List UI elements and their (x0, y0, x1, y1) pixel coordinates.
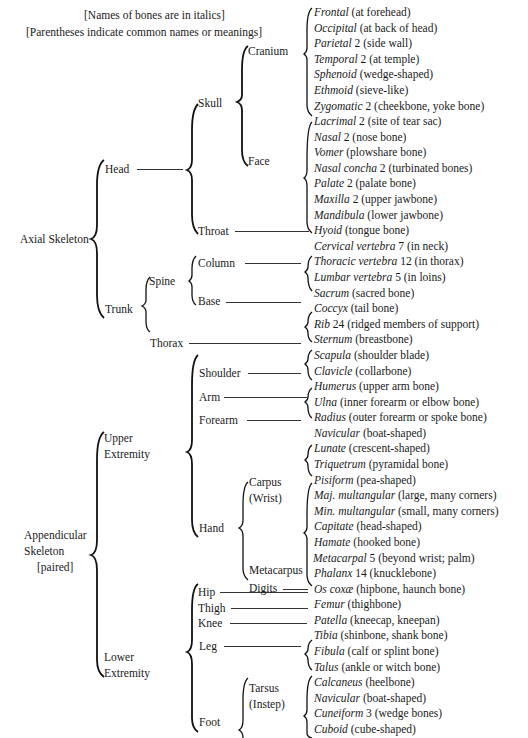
bone-name: Maj. multangular (314, 489, 395, 501)
line-thigh (231, 608, 308, 609)
bone-meaning: (calf or splint bone) (348, 645, 439, 657)
bone-entry: Occipital (at back of head) (314, 21, 437, 35)
bone-entry: Vomer (plowshare bone) (314, 145, 426, 159)
bone-meaning: (cube-shaped) (351, 723, 416, 735)
bone-entry: Humerus (upper arm bone) (314, 379, 439, 393)
bone-name: Thoracic vertebra (314, 255, 397, 267)
bone-meaning: (hipbone, haunch bone) (356, 583, 465, 595)
label-upper-extremity: Extremity (104, 447, 150, 461)
note-parentheses: [Parentheses indicate common names or me… (26, 25, 262, 39)
bone-entry: Navicular (boat-shaped) (314, 426, 426, 440)
bone-entry: Talus (ankle or witch bone) (314, 660, 440, 674)
bone-count: 2 (352, 37, 361, 49)
bone-count: 2 (356, 115, 365, 127)
bone-name: Ethmoid (314, 84, 353, 96)
label-leg: Leg (199, 639, 217, 653)
bone-entry: Maxilla 2 (upper jawbone) (314, 192, 437, 206)
bone-meaning: (side wall) (363, 37, 412, 49)
bone-entry: Hamate (hooked bone) (314, 535, 420, 549)
label-foot: Foot (199, 715, 220, 729)
bone-entry: Sacrum (sacred bone) (314, 286, 414, 300)
bone-name: Navicular (314, 692, 360, 704)
note-italics: [Names of bones are in italics] (84, 8, 225, 22)
bone-name: Mandibula (314, 209, 364, 221)
bone-name: Lacrimal (314, 115, 356, 127)
bone-entry: Zygomatic 2 (cheekbone, yoke bone) (314, 99, 484, 113)
bone-meaning: (hooked bone) (353, 536, 420, 548)
bone-entry: Cervical vertebra 7 (in neck) (314, 239, 448, 253)
bone-name: Nasal (314, 131, 341, 143)
label-forearm: Forearm (199, 413, 238, 427)
label-instep: (Instep) (249, 697, 285, 711)
bone-count: 5 (392, 271, 401, 283)
label-face: Face (248, 154, 270, 168)
bone-entry: Pisiform (pea-shaped) (314, 473, 416, 487)
label-trunk: Trunk (105, 302, 133, 316)
label-knee: Knee (198, 616, 222, 630)
bone-entry: Patella (kneecap, kneepan) (314, 613, 439, 627)
label-head: Head (105, 162, 129, 176)
bone-count: 2 (363, 100, 372, 112)
bone-entry: Lunate (crescent-shaped) (314, 441, 430, 455)
line-throat (235, 231, 309, 232)
bone-entry: Hyoid (tongue bone) (314, 223, 409, 237)
bone-meaning: (at back of head) (360, 22, 438, 34)
bone-entry: Triquetrum (pyramidal bone) (314, 457, 448, 471)
line-head (137, 169, 183, 170)
bone-entry: Mandibula (lower jawbone) (314, 208, 443, 222)
bone-name: Hyoid (314, 224, 342, 236)
bone-meaning: (knucklebone) (370, 567, 436, 579)
bone-meaning: (beyond wrist; palm) (378, 552, 474, 564)
bone-entry: Frontal (at forehead) (314, 5, 411, 19)
bone-meaning: (sacred bone) (352, 287, 414, 299)
bone-name: Rib (314, 318, 330, 330)
bone-name: Femur (314, 598, 345, 610)
bone-entry: Coccyx (tail bone) (314, 301, 398, 315)
bone-name: Calcaneus (314, 676, 363, 688)
bone-entry: Sphenoid (wedge-shaped) (314, 67, 433, 81)
bone-name: Lunate (314, 442, 346, 454)
bone-name: Sternum (314, 333, 352, 345)
bone-name: Vomer (314, 146, 343, 158)
label-axial-skeleton: Axial Skeleton (20, 232, 89, 246)
line-digits (283, 589, 308, 590)
bone-name: Palate (314, 177, 344, 189)
bone-name: Tibia (314, 629, 338, 641)
bone-name: Sacrum (314, 287, 349, 299)
line-thorax (189, 343, 301, 344)
line-shoulder (248, 373, 301, 374)
bone-entry: Scapula (shoulder blade) (314, 348, 429, 362)
bone-entry: Temporal 2 (at temple) (314, 52, 419, 66)
bone-meaning: (tail bone) (351, 302, 399, 314)
bone-entry: Lacrimal 2 (site of tear sac) (314, 114, 441, 128)
bone-name: Cervical vertebra (314, 240, 395, 252)
bone-meaning: (at forehead) (352, 6, 411, 18)
bone-entry: Navicular (boat-shaped) (314, 691, 426, 705)
bone-entry: Tibia (shinbone, shank bone) (314, 628, 448, 642)
label-base: Base (198, 294, 220, 308)
bone-meaning: (wedge-shaped) (360, 68, 433, 80)
bone-name: Talus (314, 661, 339, 673)
bone-count: 2 (341, 131, 350, 143)
bone-meaning: (pyramidal bone) (369, 458, 449, 470)
bone-name: Scapula (314, 349, 351, 361)
bone-meaning: (boat-shaped) (363, 692, 426, 704)
bone-meaning: (thighbone) (348, 598, 402, 610)
bone-meaning: (turbinated bones) (388, 162, 472, 174)
bone-entry: Calcaneus (heelbone) (314, 675, 415, 689)
bone-count: 2 (350, 193, 359, 205)
bone-meaning: (shinbone, shank bone) (341, 629, 448, 641)
bone-meaning: (breastbone) (355, 333, 412, 345)
bone-name: Parietal (314, 37, 352, 49)
bone-name: Pisiform (314, 474, 354, 486)
label-appendicular: Appendicular (24, 528, 87, 542)
bone-meaning: (cheekbone, yoke bone) (374, 100, 484, 112)
bone-meaning: (palate bone) (356, 177, 416, 189)
bone-name: Patella (314, 614, 347, 626)
bone-name: Phalanx (314, 567, 352, 579)
label-carpus: Carpus (249, 475, 282, 489)
bone-meaning: (inner forearm or elbow bone) (340, 396, 479, 408)
bone-name: Coccyx (314, 302, 348, 314)
bone-entry: Nasal 2 (nose bone) (314, 130, 406, 144)
bone-meaning: (wedge bones) (375, 707, 442, 719)
